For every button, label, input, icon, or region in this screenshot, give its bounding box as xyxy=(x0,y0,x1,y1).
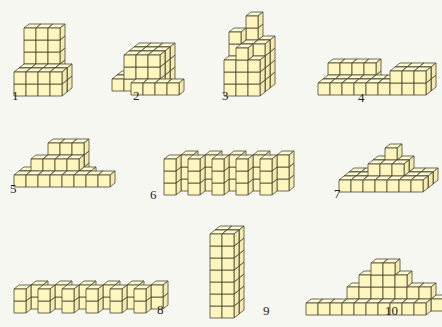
cube-stack-drawing xyxy=(0,0,442,327)
figure-label: 10 xyxy=(385,303,398,319)
